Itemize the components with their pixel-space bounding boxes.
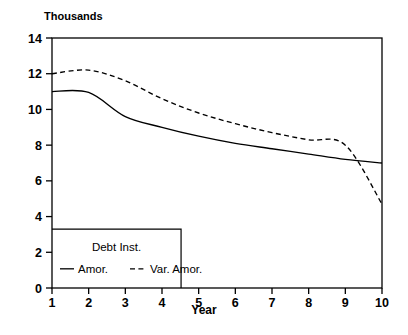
legend-title: Debt Inst.	[92, 241, 141, 253]
legend-label-var-amor: Var. Amor.	[150, 263, 202, 275]
y-tick-label: 14	[28, 32, 42, 46]
chart-legend: Debt Inst.Amor.Var. Amor.	[52, 229, 202, 288]
y-axis-tick-group: 02468101214	[28, 32, 52, 296]
series-line-var-amor	[52, 70, 382, 204]
x-axis-title: Year	[0, 303, 408, 317]
y-tick-label: 10	[28, 103, 42, 117]
y-tick-label: 8	[35, 139, 42, 153]
chart-container: Thousands 02468101214 12345678910 Debt I…	[0, 0, 408, 335]
line-chart-plot: 02468101214 12345678910 Debt Inst.Amor.V…	[0, 0, 408, 335]
series-line-amor	[52, 90, 382, 163]
legend-label-amor: Amor.	[78, 263, 108, 275]
y-tick-label: 4	[35, 210, 42, 224]
y-tick-label: 12	[28, 67, 42, 81]
y-tick-label: 6	[35, 174, 42, 188]
y-tick-label: 0	[35, 282, 42, 296]
data-series-group	[52, 70, 382, 204]
y-axis-unit-label: Thousands	[44, 10, 103, 22]
y-tick-label: 2	[35, 246, 42, 260]
legend-box	[52, 229, 181, 288]
